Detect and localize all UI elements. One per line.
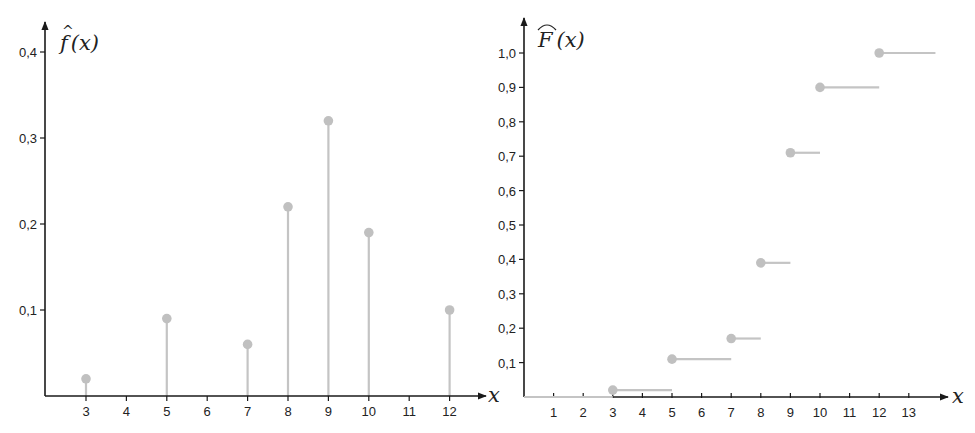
cdf-function-label: F(x)	[537, 28, 585, 52]
pmf-chart: 0,10,20,30,4 3456789101112 f(x) ^ x	[19, 22, 500, 419]
step-dot	[815, 83, 825, 93]
y-tick-label: 0,1	[19, 303, 37, 318]
pmf-y-ticks: 0,10,20,30,4	[19, 45, 45, 318]
x-tick-label: 4	[639, 405, 646, 420]
step-dot	[786, 148, 796, 158]
x-tick-label: 10	[362, 404, 376, 419]
step-dot	[608, 385, 618, 395]
x-tick-label: 1	[550, 405, 557, 420]
cdf-x-axis-label: x	[952, 384, 964, 408]
figure: 0,10,20,30,4 3456789101112 f(x) ^ x 0,10…	[0, 0, 975, 433]
x-tick-label: 8	[757, 405, 764, 420]
y-tick-label: 0,2	[498, 321, 516, 336]
x-tick-label: 6	[698, 405, 705, 420]
y-tick-label: 0,1	[498, 356, 516, 371]
x-tick-label: 2	[580, 405, 587, 420]
y-tick-label: 0,9	[498, 80, 516, 95]
x-tick-label: 6	[204, 404, 211, 419]
x-tick-label: 9	[787, 405, 794, 420]
step-dot	[756, 258, 766, 268]
pmf-x-ticks: 3456789101112	[82, 396, 456, 419]
x-tick-label: 8	[284, 404, 291, 419]
cdf-y-ticks: 0,10,20,30,40,50,60,70,80,91,0	[498, 46, 524, 371]
pmf-hat-accent: ^	[62, 23, 74, 39]
stem-dot	[243, 340, 253, 350]
x-tick-label: 7	[728, 405, 735, 420]
x-tick-label: 3	[609, 405, 616, 420]
x-tick-label: 12	[442, 404, 456, 419]
y-tick-label: 0,3	[19, 131, 37, 146]
x-tick-label: 4	[123, 404, 130, 419]
y-tick-label: 0,4	[19, 45, 37, 60]
step-dot	[726, 334, 736, 344]
stem-dot	[81, 374, 91, 384]
stem-dot	[445, 305, 455, 315]
stem-dot	[364, 228, 374, 238]
y-tick-label: 0,6	[498, 184, 516, 199]
stem-dot	[162, 314, 172, 324]
stem-dot	[324, 116, 334, 126]
y-tick-label: 0,2	[19, 217, 37, 232]
y-tick-label: 0,5	[498, 218, 516, 233]
y-tick-label: 1,0	[498, 46, 516, 61]
x-tick-label: 3	[82, 404, 89, 419]
x-tick-label: 12	[872, 405, 886, 420]
stem-dot	[283, 202, 293, 212]
step-dot	[874, 48, 884, 58]
x-tick-label: 9	[325, 404, 332, 419]
pmf-x-axis-label: x	[488, 383, 500, 407]
y-tick-label: 0,3	[498, 287, 516, 302]
pmf-stems	[81, 116, 454, 396]
x-tick-label: 10	[813, 405, 827, 420]
y-tick-label: 0,8	[498, 115, 516, 130]
step-dot	[667, 354, 677, 364]
x-tick-label: 5	[163, 404, 170, 419]
x-tick-label: 11	[402, 404, 416, 419]
y-tick-label: 0,7	[498, 149, 516, 164]
x-tick-label: 5	[668, 405, 675, 420]
x-tick-label: 11	[843, 405, 857, 420]
y-tick-label: 0,4	[498, 252, 516, 267]
x-tick-label: 7	[244, 404, 251, 419]
cdf-chart: 0,10,20,30,40,50,60,70,80,91,0 123456789…	[498, 18, 964, 420]
cdf-steps	[524, 48, 935, 397]
x-tick-label: 13	[902, 405, 916, 420]
